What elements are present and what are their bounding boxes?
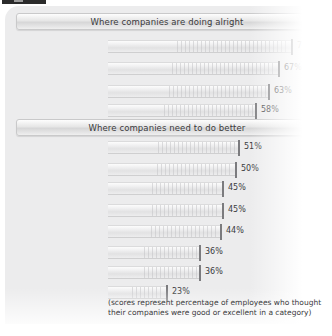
bar-texture xyxy=(161,105,253,116)
bar-end-cap xyxy=(235,162,237,178)
bar-texture xyxy=(155,142,236,153)
bar-value-label: 44% xyxy=(226,226,244,235)
bar-texture xyxy=(141,247,197,258)
bar-texture xyxy=(154,164,233,175)
bar-texture xyxy=(149,205,220,216)
chart-footnote-line-1: (scores represent percentage of employee… xyxy=(108,298,322,308)
chart-figure: Where companies are doing alright Where … xyxy=(0,0,332,336)
section-header-better-label: Where companies need to do better xyxy=(89,123,246,133)
chart-footnote: (scores represent percentage of employee… xyxy=(108,298,322,318)
bar-end-cap xyxy=(220,224,222,240)
section-header-alright-label: Where companies are doing alright xyxy=(91,17,244,27)
bar-end-cap xyxy=(199,245,201,261)
bar-end-cap xyxy=(199,265,201,281)
chart-footnote-line-2: their companies were good or excellent i… xyxy=(108,308,322,318)
cropped-title-strip-highlight-icon xyxy=(14,0,23,2)
bar-texture xyxy=(149,183,220,194)
cropped-title-strip-icon xyxy=(2,0,46,4)
page-edge-fade-right xyxy=(250,6,323,324)
bar-value-label: 36% xyxy=(205,267,223,276)
bar-value-label: 36% xyxy=(205,247,223,256)
bar-texture xyxy=(148,226,218,237)
bar-end-cap xyxy=(238,140,240,156)
bar-end-cap xyxy=(222,181,224,197)
bar-value-label: 45% xyxy=(228,205,246,214)
bar-end-cap xyxy=(222,203,224,219)
bar-value-label: 45% xyxy=(228,183,246,192)
bar-texture xyxy=(141,267,197,278)
